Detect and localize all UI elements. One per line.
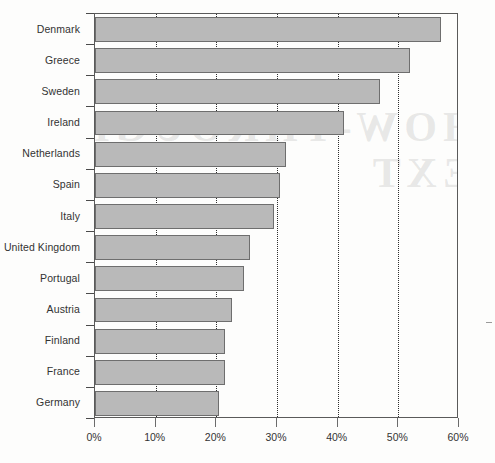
gridline-30pct: [277, 14, 278, 417]
gridline-40pct: [338, 14, 339, 417]
x-tick-60pct: [458, 418, 459, 427]
y-label-germany: Germany: [36, 396, 80, 408]
x-label-20pct: 20%: [205, 431, 226, 443]
y-tick-7: [86, 231, 94, 232]
bar-denmark: [95, 17, 441, 42]
y-label-united-kingdom: United Kingdom: [4, 241, 80, 253]
y-tick-4: [86, 138, 94, 139]
plot-area: SHOW-THROUGH TEXT: [94, 13, 458, 418]
y-label-finland: Finland: [45, 334, 80, 346]
watermark-line-2: TEXT: [367, 150, 458, 196]
y-tick-12: [86, 387, 94, 388]
x-tick-40pct: [337, 418, 338, 427]
x-tick-10pct: [155, 418, 156, 427]
y-label-portugal: Portugal: [40, 272, 80, 284]
y-label-france: France: [47, 365, 80, 377]
y-tick-11: [86, 356, 94, 357]
y-tick-2: [86, 75, 94, 76]
x-tick-0pct: [94, 418, 95, 427]
y-tick-5: [86, 169, 94, 170]
bar-germany: [95, 391, 219, 416]
y-tick-9: [86, 293, 94, 294]
y-label-ireland: Ireland: [47, 116, 80, 128]
y-label-spain: Spain: [53, 178, 80, 190]
x-label-10pct: 10%: [144, 431, 165, 443]
y-tick-8: [86, 262, 94, 263]
x-label-50pct: 50%: [387, 431, 408, 443]
y-label-greece: Greece: [45, 54, 80, 66]
gridline-50pct: [398, 14, 399, 417]
bar-portugal: [95, 266, 244, 291]
bar-netherlands: [95, 142, 286, 167]
bar-austria: [95, 298, 232, 323]
x-tick-30pct: [276, 418, 277, 427]
scan-edge-mark: [486, 322, 492, 323]
bar-united-kingdom: [95, 235, 250, 260]
y-label-denmark: Denmark: [37, 23, 80, 35]
y-tick-end: [86, 418, 94, 419]
y-tick-3: [86, 106, 94, 107]
bar-spain: [95, 173, 280, 198]
y-axis-category-labels: DenmarkGreeceSwedenIrelandNetherlandsSpa…: [0, 13, 86, 418]
y-label-austria: Austria: [47, 303, 80, 315]
x-label-60pct: 60%: [447, 431, 468, 443]
bar-ireland: [95, 111, 344, 136]
bar-finland: [95, 329, 225, 354]
y-tick-0: [86, 13, 94, 14]
bar-chart-figure: DenmarkGreeceSwedenIrelandNetherlandsSpa…: [0, 0, 495, 463]
bar-france: [95, 360, 225, 385]
y-tick-10: [86, 325, 94, 326]
x-label-0pct: 0%: [86, 431, 101, 443]
bar-sweden: [95, 79, 380, 104]
y-tick-1: [86, 44, 94, 45]
y-label-sweden: Sweden: [41, 85, 80, 97]
x-label-40pct: 40%: [326, 431, 347, 443]
x-tick-20pct: [215, 418, 216, 427]
bar-italy: [95, 204, 274, 229]
x-label-30pct: 30%: [265, 431, 286, 443]
y-tick-6: [86, 200, 94, 201]
y-label-italy: Italy: [60, 210, 80, 222]
bar-greece: [95, 48, 410, 73]
x-tick-50pct: [397, 418, 398, 427]
y-label-netherlands: Netherlands: [22, 147, 80, 159]
